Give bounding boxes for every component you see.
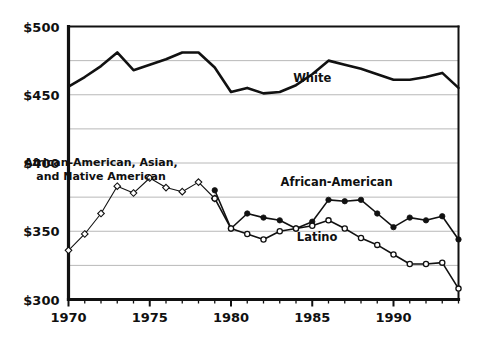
data-point-marker-open [456, 286, 461, 291]
data-point-marker-open [440, 260, 445, 265]
x-axis-tick-labels: 19701975198019851990 [50, 310, 411, 325]
series-annotation-line: White [293, 71, 331, 85]
data-point-marker-filled [277, 218, 282, 223]
data-point-marker-open [407, 261, 412, 266]
data-point-marker-diamond [163, 184, 170, 191]
data-point-marker-open [358, 235, 363, 240]
x-axis-tick-label: 1990 [375, 310, 411, 325]
data-point-marker-filled [423, 218, 428, 223]
data-point-marker-filled [407, 215, 412, 220]
series-annotation-label: African-American, Asian,and Native Ameri… [24, 156, 178, 183]
series-line [69, 178, 215, 250]
series-line [69, 52, 459, 93]
y-axis-tick-label: $450 [23, 88, 59, 103]
data-point-marker-diamond [114, 183, 121, 190]
y-axis-tick-label: $300 [23, 293, 59, 308]
series-african-american-asian-and-native-american [65, 175, 218, 254]
data-point-marker-open [212, 196, 217, 201]
data-point-marker-filled [456, 237, 461, 242]
data-point-marker-diamond [179, 188, 186, 195]
series-white [69, 52, 459, 93]
data-point-marker-filled [342, 199, 347, 204]
y-axis-tick-label: $500 [23, 20, 59, 35]
x-axis-tick-label: 1970 [50, 310, 86, 325]
data-point-marker-filled [212, 188, 217, 193]
data-point-marker-open [261, 237, 266, 242]
data-point-marker-open [228, 226, 233, 231]
x-axis-tick-label: 1975 [132, 310, 168, 325]
data-point-marker-filled [261, 215, 266, 220]
series-annotations: WhiteAfrican-American, Asian,and Native … [24, 71, 392, 243]
x-axis-tick-label: 1980 [213, 310, 249, 325]
data-point-marker-open [245, 231, 250, 236]
x-axis-tick-label: 1985 [294, 310, 330, 325]
series-annotation-label: White [293, 71, 331, 85]
data-point-marker-open [326, 218, 331, 223]
series-annotation-line: Latino [297, 230, 338, 244]
data-point-marker-open [342, 226, 347, 231]
data-point-marker-open [423, 261, 428, 266]
series-annotation-line: and Native American [36, 170, 165, 183]
line-chart: $500$450$400$350$300 1970197519801985199… [0, 0, 489, 339]
chart-container: $500$450$400$350$300 1970197519801985199… [0, 0, 489, 339]
data-point-marker-filled [326, 197, 331, 202]
data-point-marker-filled [440, 214, 445, 219]
series-annotation-label: African-American [281, 175, 393, 189]
data-point-marker-filled [391, 224, 396, 229]
data-point-marker-filled [358, 197, 363, 202]
y-axis-tick-label: $350 [23, 224, 59, 239]
series-annotation-line: African-American [281, 175, 393, 189]
series-annotation-label: Latino [297, 230, 338, 244]
series-annotation-line: African-American, Asian, [24, 156, 178, 169]
data-point-marker-filled [375, 211, 380, 216]
data-point-marker-open [391, 252, 396, 257]
data-point-marker-open [375, 242, 380, 247]
data-point-marker-open [277, 229, 282, 234]
data-point-marker-filled [245, 211, 250, 216]
data-point-marker-open [310, 223, 315, 228]
